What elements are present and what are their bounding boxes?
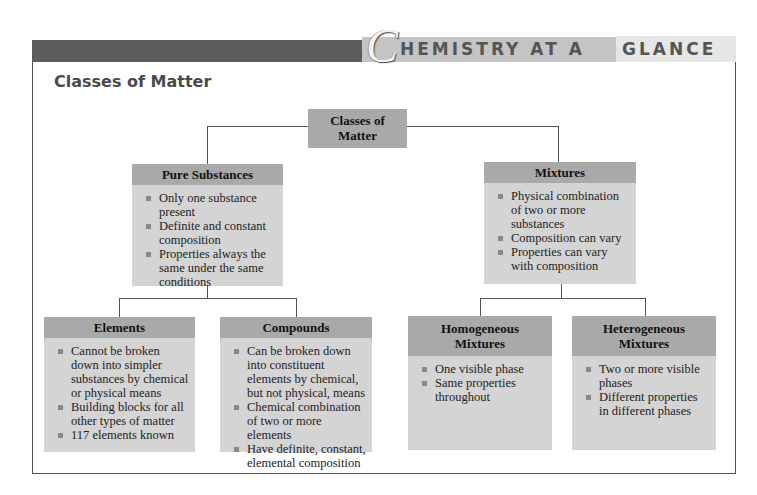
bullet: Composition can vary xyxy=(498,231,630,245)
bullet: Properties can vary with composition xyxy=(498,245,630,273)
node-header: Elements xyxy=(44,317,195,338)
connector xyxy=(558,126,559,163)
connector xyxy=(480,298,646,299)
node-heterogeneous-mixtures: Heterogeneous Mixtures Two or more visib… xyxy=(572,316,716,450)
node-mixtures: Mixtures Physical combination of two or … xyxy=(484,162,636,284)
connector xyxy=(296,298,297,317)
bullet: Have definite, constant, elemental compo… xyxy=(234,442,366,470)
bullet: Cannot be broken down into simpler subst… xyxy=(58,344,189,400)
connector xyxy=(207,126,208,164)
node-header: Compounds xyxy=(220,317,372,338)
bullet: Building blocks for all other types of m… xyxy=(58,400,189,428)
bullet: Physical combination of two or more subs… xyxy=(498,189,630,231)
banner-title-glance: GLANCE xyxy=(622,36,716,62)
page-title: Classes of Matter xyxy=(54,72,211,91)
node-label: Matter xyxy=(308,128,407,143)
connector xyxy=(407,126,559,127)
bullet: Chemical combination of two or more elem… xyxy=(234,400,366,442)
node-header: Heterogeneous Mixtures xyxy=(572,316,716,356)
connector xyxy=(119,298,120,317)
bullet: 117 elements known xyxy=(58,428,189,442)
connector xyxy=(645,298,646,316)
connector xyxy=(480,298,481,316)
node-header: Mixtures xyxy=(484,162,636,183)
bullet: Two or more visible phases xyxy=(586,362,710,390)
connector xyxy=(561,284,562,298)
banner-initial: C xyxy=(366,22,398,70)
node-label: Classes of xyxy=(308,113,407,128)
bullet: One visible phase xyxy=(422,362,546,376)
bullet: Properties always the same under the sam… xyxy=(146,247,277,289)
node-header: Homogeneous Mixtures xyxy=(408,316,552,356)
bullet: Can be broken down into constituent elem… xyxy=(234,344,366,400)
connector xyxy=(119,298,296,299)
bullet: Same properties throughout xyxy=(422,376,546,404)
banner-dark-band xyxy=(32,40,402,62)
bullet: Different properties in different phases xyxy=(586,390,710,418)
node-homogeneous-mixtures: Homogeneous Mixtures One visible phase S… xyxy=(408,316,552,450)
connector xyxy=(207,126,308,127)
node-header: Pure Substances xyxy=(132,164,283,185)
node-pure-substances: Pure Substances Only one substance prese… xyxy=(132,164,283,286)
bullet: Definite and constant composition xyxy=(146,219,277,247)
node-elements: Elements Cannot be broken down into simp… xyxy=(44,317,195,452)
node-classes-of-matter: Classes of Matter xyxy=(308,109,407,148)
banner-title: HEMISTRY AT A xyxy=(400,36,585,62)
node-compounds: Compounds Can be broken down into consti… xyxy=(220,317,372,452)
bullet: Only one substance present xyxy=(146,191,277,219)
